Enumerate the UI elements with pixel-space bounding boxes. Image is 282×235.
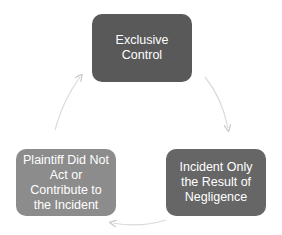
node-label: Plaintiff Did Not Act or Contribute to t… [20, 153, 112, 213]
node-exclusive-control: Exclusive Control [92, 14, 192, 82]
node-incident-only-result-of-negligence: Incident Only the Result of Negligence [166, 149, 266, 216]
arrow-right-to-left [113, 220, 166, 225]
node-plaintiff-did-not-act: Plaintiff Did Not Act or Contribute to t… [16, 149, 116, 216]
node-label: Exclusive Control [96, 33, 188, 63]
arrow-top-to-right [205, 77, 228, 128]
arrow-left-to-top [55, 77, 80, 130]
cycle-diagram: Exclusive Control Incident Only the Resu… [0, 0, 282, 235]
node-label: Incident Only the Result of Negligence [170, 160, 262, 205]
